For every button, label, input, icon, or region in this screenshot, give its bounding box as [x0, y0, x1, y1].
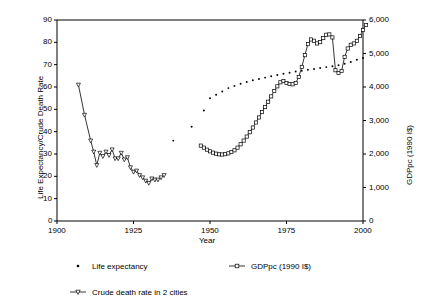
- marker-square: [236, 146, 239, 149]
- y-tick-label-right: 5,000: [369, 49, 389, 58]
- y-tick-label-left: 0: [48, 216, 52, 225]
- y-axis-title-left: Life Expectancy/Crude Death Rate: [36, 76, 45, 199]
- legend-label-life-expectancy: Life expectancy: [92, 262, 148, 271]
- marker-dot: [325, 66, 327, 68]
- y-tick-label-left: 80: [43, 37, 52, 46]
- marker-square: [294, 81, 297, 84]
- marker-dot: [203, 109, 205, 111]
- marker-square: [319, 41, 322, 44]
- marker-triangle: [110, 148, 114, 152]
- series-line: [78, 85, 164, 183]
- marker-dot: [191, 126, 193, 128]
- marker-square: [273, 89, 276, 92]
- plot-area: [0, 0, 426, 308]
- marker-dot: [227, 87, 229, 89]
- marker-dot: [258, 78, 260, 80]
- marker-dot: [295, 71, 297, 73]
- legend-label-crude-death-rate: Crude death rate in 2 cities: [92, 288, 188, 297]
- marker-triangle: [89, 139, 93, 143]
- marker-dot: [252, 79, 254, 81]
- marker-square: [251, 126, 254, 129]
- marker-square: [306, 43, 309, 46]
- marker-dot: [356, 59, 358, 61]
- y-tick-label-right: 4,000: [369, 82, 389, 91]
- legend-marker-1: [229, 264, 245, 268]
- marker-square: [343, 55, 346, 58]
- marker-square: [361, 28, 364, 31]
- marker-square: [245, 135, 248, 138]
- x-tick-label: 1900: [48, 226, 66, 235]
- marker-square: [257, 116, 260, 119]
- marker-dot: [289, 72, 291, 74]
- marker-dot: [172, 140, 174, 142]
- marker-dot: [215, 94, 217, 96]
- marker-dot: [338, 64, 340, 66]
- marker-square: [331, 36, 334, 39]
- marker-triangle: [122, 158, 126, 162]
- marker-square: [267, 100, 270, 103]
- marker-square: [303, 54, 306, 57]
- marker-dot: [221, 90, 223, 92]
- marker-square: [358, 34, 361, 37]
- series-crude-death-rate-in-2-cities: [76, 83, 166, 185]
- marker-square: [355, 39, 358, 42]
- marker-square: [346, 47, 349, 50]
- x-tick-label: 1925: [125, 226, 143, 235]
- legend-label-gdppc: GDPpc (1990 I$): [251, 262, 311, 271]
- marker-square: [254, 121, 257, 124]
- legend-marker-2: [70, 290, 86, 294]
- marker-square: [297, 75, 300, 78]
- marker-square: [364, 23, 367, 26]
- marker-square: [270, 95, 273, 98]
- marker-triangle: [132, 170, 136, 174]
- y-axis-title-right: GDPpc (1990 I$): [405, 125, 414, 185]
- legend-dot-icon: [77, 265, 80, 268]
- marker-dot: [319, 67, 321, 69]
- y-tick-label-left: 90: [43, 15, 52, 24]
- y-tick-label-right: 3,000: [369, 116, 389, 125]
- marker-dot: [276, 74, 278, 76]
- y-tick-label-right: 6,000: [369, 15, 389, 24]
- y-tick-label-left: 70: [43, 60, 52, 69]
- marker-triangle: [95, 164, 99, 168]
- y-tick-label-right: 0: [369, 216, 373, 225]
- marker-dot: [362, 57, 364, 59]
- x-tick-label: 1975: [278, 226, 296, 235]
- marker-square: [239, 143, 242, 146]
- marker-dot: [350, 61, 352, 63]
- marker-square: [300, 65, 303, 68]
- marker-triangle: [119, 151, 123, 155]
- marker-dot: [240, 83, 242, 85]
- marker-square: [340, 69, 343, 72]
- marker-triangle: [83, 113, 87, 117]
- marker-dot: [246, 81, 248, 83]
- marker-square: [263, 106, 266, 109]
- marker-dot: [270, 75, 272, 77]
- marker-dot: [313, 68, 315, 70]
- marker-dot: [234, 85, 236, 87]
- axes: [54, 20, 366, 224]
- x-tick-label: 1950: [201, 226, 219, 235]
- marker-square: [235, 264, 239, 268]
- marker-triangle: [76, 83, 80, 87]
- data-series: [76, 23, 367, 185]
- marker-square: [260, 111, 263, 114]
- marker-triangle: [147, 181, 151, 185]
- marker-triangle: [101, 155, 105, 159]
- series-line: [201, 25, 366, 154]
- marker-square: [276, 85, 279, 88]
- marker-triangle: [107, 154, 111, 158]
- marker-dot: [331, 65, 333, 67]
- marker-square: [322, 36, 325, 39]
- y-tick-label-right: 1,000: [369, 183, 389, 192]
- legend-marker-0: [77, 265, 80, 268]
- plot-frame: [57, 20, 363, 221]
- marker-square: [248, 131, 251, 134]
- marker-triangle: [92, 150, 96, 154]
- x-tick-label: 2000: [354, 226, 372, 235]
- marker-dot: [307, 69, 309, 71]
- marker-dot: [282, 73, 284, 75]
- marker-dot: [264, 77, 266, 79]
- chart-figure: 010203040506070809001,0002,0003,0004,000…: [0, 0, 426, 308]
- marker-square: [242, 139, 245, 142]
